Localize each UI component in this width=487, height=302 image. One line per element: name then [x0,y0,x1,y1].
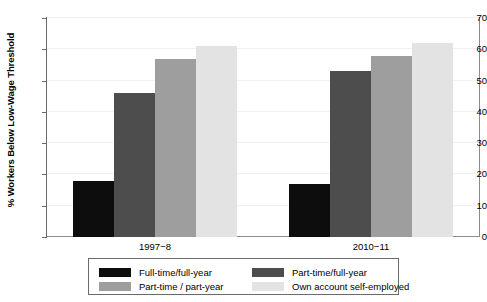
legend-label: Own account self-employed [292,282,409,292]
bar [371,56,412,237]
bar [330,71,371,237]
y-tick-mark [42,49,46,50]
y-tick-mark [42,206,46,207]
legend-item[interactable]: Part-time / part-year [99,280,223,293]
x-tick-label: 1997−8 [95,241,215,252]
bar [289,184,330,237]
bar-chart: % Workers Below Low-Wage Threshold 01020… [0,0,487,302]
legend-swatch [252,268,284,277]
legend-label: Part-time / part-year [139,282,223,292]
y-tick-mark [42,112,46,113]
bar [412,43,453,237]
bar [114,93,155,237]
bar [196,46,237,237]
y-axis-title: % Workers Below Low-Wage Threshold [0,0,22,240]
bar [155,59,196,237]
y-tick-mark [42,18,46,19]
legend-item[interactable]: Part-time/full-year [252,266,367,279]
legend-item[interactable]: Full-time/full-year [99,266,212,279]
y-tick-mark [42,237,46,238]
legend-item[interactable]: Own account self-employed [252,280,409,293]
legend-label: Full-time/full-year [139,268,212,278]
legend-label: Part-time/full-year [292,268,367,278]
y-tick-mark [42,143,46,144]
y-tick-mark [42,81,46,82]
bar [73,181,114,237]
legend-swatch [99,282,131,291]
legend: Full-time/full-yearPart-time/full-yearPa… [88,258,399,295]
legend-swatch [99,268,131,277]
x-tick-label: 2010−11 [311,241,431,252]
bars-layer [47,18,479,237]
legend-swatch [252,282,284,291]
y-tick-mark [42,174,46,175]
